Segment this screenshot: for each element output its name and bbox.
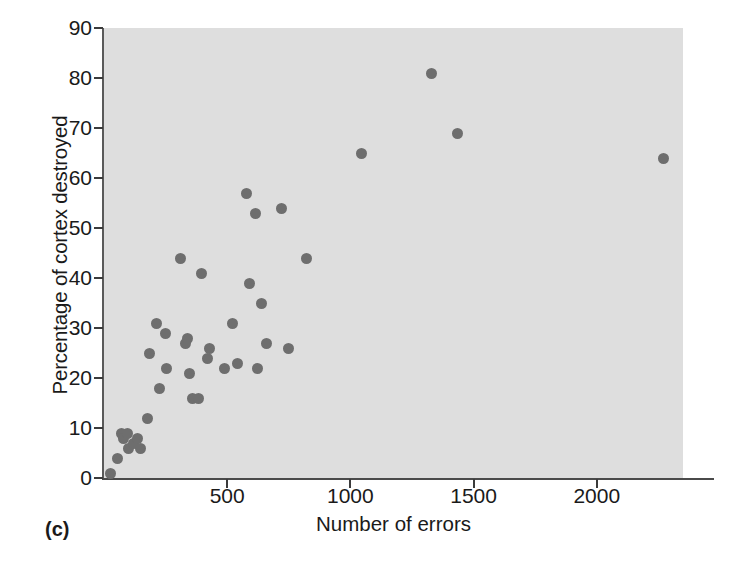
y-axis-tick-mark (94, 477, 103, 479)
data-point (219, 363, 230, 374)
data-point (204, 343, 215, 354)
data-point (184, 368, 195, 379)
y-axis-tick-mark (94, 227, 103, 229)
data-point (232, 358, 243, 369)
data-point (135, 443, 146, 454)
plot-area (104, 28, 683, 478)
x-axis-tick-mark (596, 479, 598, 488)
y-axis-tick-mark (94, 427, 103, 429)
y-axis-tick-mark (94, 27, 103, 29)
data-point (283, 343, 294, 354)
data-point (160, 328, 171, 339)
data-point (244, 278, 255, 289)
y-axis-tick-mark (94, 277, 103, 279)
x-axis-title: Number of errors (104, 512, 683, 536)
data-point (301, 253, 312, 264)
data-point (276, 203, 287, 214)
data-point (175, 253, 186, 264)
panel-letter-label: (c) (45, 518, 69, 541)
data-point (196, 268, 207, 279)
data-point (132, 433, 143, 444)
data-point (252, 363, 263, 374)
data-point (241, 188, 252, 199)
y-axis-tick-label: 90 (46, 17, 92, 38)
data-point (193, 393, 204, 404)
y-axis-title: Percentage of cortex destroyed (48, 45, 72, 465)
data-point (202, 353, 213, 364)
data-point (151, 318, 162, 329)
data-point (261, 338, 272, 349)
data-point (250, 208, 261, 219)
data-point (227, 318, 238, 329)
data-point (112, 453, 123, 464)
data-point (182, 333, 193, 344)
x-axis-tick-mark (226, 479, 228, 488)
x-axis-line (102, 478, 714, 480)
data-point (426, 68, 437, 79)
data-point (142, 413, 153, 424)
y-axis-tick-label: 0 (46, 467, 92, 488)
data-point (154, 383, 165, 394)
y-axis-tick-mark (94, 327, 103, 329)
data-point (356, 148, 367, 159)
data-point (452, 128, 463, 139)
data-point (256, 298, 267, 309)
data-point (161, 363, 172, 374)
data-point (658, 153, 669, 164)
x-axis-tick-mark (473, 479, 475, 488)
data-point (144, 348, 155, 359)
data-point (105, 468, 116, 479)
y-axis-tick-mark (94, 127, 103, 129)
scatter-plot-figure: 0102030405060708090 500100015002000 Perc… (0, 0, 736, 584)
y-axis-tick-mark (94, 177, 103, 179)
x-axis-tick-mark (349, 479, 351, 488)
y-axis-tick-mark (94, 77, 103, 79)
y-axis-line (102, 28, 104, 480)
y-axis-tick-mark (94, 377, 103, 379)
